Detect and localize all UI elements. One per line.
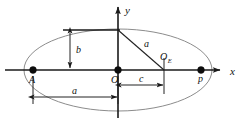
point-a-label: A: [28, 74, 36, 85]
focus-label-main: O: [160, 51, 167, 62]
dimension-label-a-hypotenuse: a: [144, 38, 149, 49]
point-o-label: O: [111, 74, 118, 85]
focus-label: OE: [160, 51, 172, 64]
point-o-dot: [115, 67, 122, 74]
focus-label-subscript: E: [167, 57, 172, 64]
figure-canvas: y x A O p OE b c a a: [0, 0, 246, 136]
dimension-label-a-lower: a: [72, 85, 77, 96]
hypotenuse-segment-a: [118, 30, 164, 70]
x-axis-label: x: [229, 65, 235, 77]
dimension-label-c: c: [139, 73, 144, 84]
point-p-label: p: [197, 73, 203, 84]
ellipse-geometry-figure: y x A O p OE b c a a: [0, 0, 246, 136]
point-a-dot: [30, 67, 37, 74]
y-axis-label: y: [124, 4, 130, 16]
dimension-label-b: b: [76, 44, 81, 55]
